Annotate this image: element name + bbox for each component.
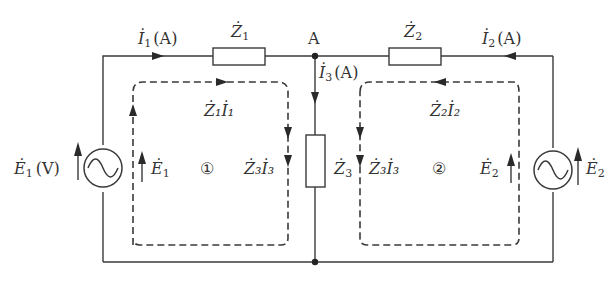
loop1-right-arrow-icon: [284, 127, 292, 139]
loop1-top-arrow-icon: [216, 78, 228, 86]
label-z2i2: Ż₂İ₂: [429, 100, 460, 120]
impedance-z1: [213, 48, 265, 65]
label-i3: İ3(A): [318, 62, 358, 84]
node-a-dot: [312, 53, 318, 59]
i2-direction-arrow-icon: [504, 52, 516, 60]
i1-direction-arrow-icon: [152, 52, 164, 60]
label-e1-source: Ė1(V): [13, 158, 60, 180]
i3-direction-arrow-icon: [311, 92, 319, 104]
label-e1-loop: Ė1: [150, 158, 170, 180]
loop2-left-arrow-icon: [356, 127, 364, 139]
label-loop-1: ①: [200, 159, 214, 178]
label-z2: Ż2: [403, 21, 422, 43]
circuit-diagram: İ1(A) Ż1 A Ż2 İ2(A) İ3(A) Ż₁İ₁ Ż₂İ₂ Ė1(V…: [0, 0, 616, 281]
label-z3i3-right: Ż₃İ₃: [368, 158, 399, 178]
label-node-a: A: [307, 29, 320, 48]
ac-source-e2-icon: [534, 151, 572, 189]
label-z1: Ż1: [230, 21, 249, 43]
label-z1i1: Ż₁İ₁: [203, 100, 234, 120]
node-bottom-dot: [312, 259, 318, 265]
label-z3: Ż3: [333, 158, 352, 180]
impedance-z3: [306, 135, 325, 187]
label-i1: İ1(A): [137, 28, 177, 50]
label-e2-loop: Ė2: [479, 158, 499, 180]
label-e2-source: Ė2: [585, 158, 605, 180]
label-loop-2: ②: [432, 159, 446, 178]
loop2-top-arrow-icon: [434, 78, 446, 86]
loop1-left-arrow-icon: [129, 104, 137, 116]
ac-source-e1-icon: [84, 149, 122, 187]
label-i2: İ2(A): [481, 28, 521, 50]
label-z3i3-left: Ż₃İ₃: [243, 158, 274, 178]
impedance-z2: [389, 48, 441, 65]
